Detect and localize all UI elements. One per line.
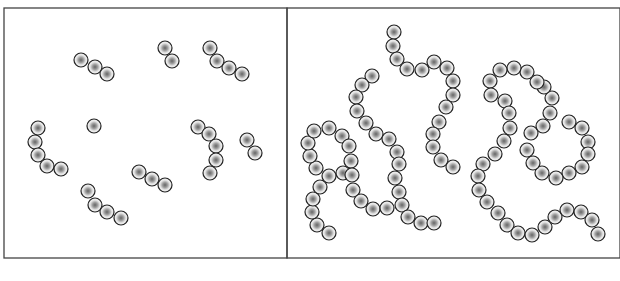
bead-circle (366, 202, 380, 216)
bead-circle (145, 172, 159, 186)
bead-circle (165, 54, 179, 68)
fibril-chain (87, 119, 101, 133)
bead-circle (203, 166, 217, 180)
bead-circle (322, 169, 336, 183)
fibril-chain (191, 120, 223, 180)
bead-circle (392, 157, 406, 171)
bead-circle (520, 143, 534, 157)
bead-circle (562, 115, 576, 129)
bead-circle (446, 160, 460, 174)
bead-circle (439, 100, 453, 114)
bead-circle (235, 67, 249, 81)
bead-circle (387, 25, 401, 39)
bead-circle (575, 121, 589, 135)
right-panel-caption-cropped (330, 270, 600, 281)
bead-circle (382, 132, 396, 146)
bead-circle (74, 53, 88, 67)
fibril-chain (158, 41, 179, 68)
bead-circle (40, 159, 54, 173)
bead-circle (342, 139, 356, 153)
bead-circle (562, 166, 576, 180)
bead-circle (344, 154, 358, 168)
bead-circle (100, 67, 114, 81)
bead-circle (427, 216, 441, 230)
bead-circle (305, 205, 319, 219)
bead-circle (209, 139, 223, 153)
bead-circle (240, 133, 254, 147)
bead-circle (471, 169, 485, 183)
bead-circle (359, 116, 373, 130)
bead-circle (386, 39, 400, 53)
bead-circle (549, 171, 563, 185)
bead-circle (446, 74, 460, 88)
bead-circle (303, 149, 317, 163)
bead-circle (345, 168, 359, 182)
bead-circle (350, 104, 364, 118)
bead-circle (400, 62, 414, 76)
bead-circle (28, 135, 42, 149)
bead-circle (307, 124, 321, 138)
figure-canvas (0, 0, 620, 281)
bead-circle (581, 147, 595, 161)
bead-circle (380, 201, 394, 215)
bead-circle (414, 216, 428, 230)
bead-circle (203, 41, 217, 55)
fibril-chain (203, 41, 249, 81)
bead-circle (81, 184, 95, 198)
bead-circle (543, 106, 557, 120)
bead-circle (322, 226, 336, 240)
bead-circle (158, 41, 172, 55)
bead-circle (369, 127, 383, 141)
fibril-chain (471, 61, 605, 242)
bead-circle (158, 178, 172, 192)
bead-circle (488, 147, 502, 161)
panel-left (4, 8, 287, 258)
bead-circle (585, 213, 599, 227)
bead-circle (502, 106, 516, 120)
fibril-chain (28, 121, 68, 176)
fibril-chain (132, 165, 172, 192)
bead-circle (415, 63, 429, 77)
bead-circle (525, 228, 539, 242)
bead-circle (100, 205, 114, 219)
bead-circle (503, 121, 517, 135)
bead-circle (354, 194, 368, 208)
bead-circle (520, 65, 534, 79)
bead-circle (483, 74, 497, 88)
fibril-chain (240, 133, 262, 160)
bead-circle (132, 165, 146, 179)
bead-circle (480, 195, 494, 209)
bead-circle (472, 183, 486, 197)
bead-circle (222, 61, 236, 75)
bead-circle (388, 171, 402, 185)
bead-circle (322, 121, 336, 135)
fibril-chain (81, 184, 128, 225)
bead-circle (401, 210, 415, 224)
bead-circle (31, 121, 45, 135)
bead-circle (507, 61, 521, 75)
bead-circle (426, 140, 440, 154)
bead-circle (575, 160, 589, 174)
panel-right (287, 8, 620, 258)
bead-circle (114, 211, 128, 225)
bead-circle (440, 61, 454, 75)
bead-circle (427, 55, 441, 69)
left-panel-caption-cropped (20, 270, 280, 281)
bead-circle (511, 226, 525, 240)
fibril-chain (74, 53, 114, 81)
fibril-comparison-figure (0, 0, 620, 281)
bead-circle (560, 203, 574, 217)
bead-circle (349, 90, 363, 104)
bead-circle (54, 162, 68, 176)
bead-circle (310, 218, 324, 232)
bead-circle (209, 153, 223, 167)
bead-circle (526, 156, 540, 170)
bead-circle (493, 63, 507, 77)
bead-circle (536, 119, 550, 133)
bead-circle (484, 88, 498, 102)
bead-circle (591, 227, 605, 241)
bead-circle (392, 185, 406, 199)
bead-circle (497, 134, 511, 148)
bead-circle (491, 206, 505, 220)
bead-circle (248, 146, 262, 160)
